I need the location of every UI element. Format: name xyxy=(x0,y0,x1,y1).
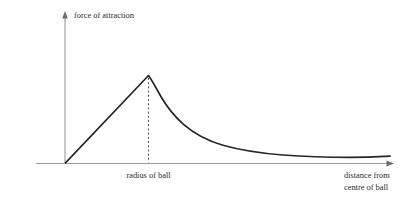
x-axis-label-line-2: centre of ball xyxy=(344,183,389,192)
x-tick-label-radius-of-ball: radius of ball xyxy=(126,171,171,180)
y-axis-arrowhead-icon xyxy=(62,11,68,19)
graph-figure: force of attraction radius of ball dista… xyxy=(0,0,414,203)
y-axis-label: force of attraction xyxy=(74,11,135,20)
force-distance-graph: force of attraction radius of ball dista… xyxy=(0,0,414,203)
x-axis-label-line-1: distance from xyxy=(344,171,390,180)
force-curve xyxy=(66,76,391,163)
x-axis-arrowhead-icon xyxy=(387,161,395,167)
